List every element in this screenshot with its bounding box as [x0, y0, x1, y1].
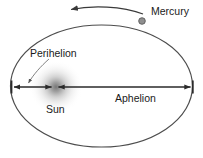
orbit-diagram-canvas [0, 0, 203, 158]
aphelion-label: Aphelion [115, 93, 156, 104]
orbit-direction-arrow [71, 7, 143, 14]
orbit-diagram: Mercury Perihelion Aphelion Sun [0, 0, 203, 158]
mercury-label: Mercury [151, 6, 189, 17]
perihelion-label: Perihelion [30, 48, 77, 59]
mercury-dot [139, 18, 146, 25]
sun-label: Sun [46, 104, 65, 115]
